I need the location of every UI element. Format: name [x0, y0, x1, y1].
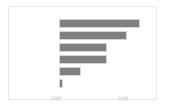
x-axis-tick-label: 20만 — [118, 96, 128, 102]
plot-area: 기술·개발 마케팅 디자인 기획·전략 영업직 고객·상담 — [59, 19, 159, 93]
bar-rect[interactable] — [59, 67, 81, 76]
bar-rect[interactable] — [59, 43, 107, 52]
bar-rect[interactable] — [59, 19, 140, 28]
bar-rect[interactable] — [59, 79, 63, 88]
plot-frame: 기술·개발 마케팅 디자인 기획·전략 영업직 고객·상담 — [8, 6, 157, 100]
bar-chart-figure: 기술·개발 마케팅 디자인 기획·전략 영업직 고객·상담 — [0, 0, 172, 108]
x-axis-tick-label: 10만 — [51, 96, 61, 102]
bar-rect[interactable] — [59, 31, 127, 40]
bar-rect[interactable] — [59, 55, 107, 64]
